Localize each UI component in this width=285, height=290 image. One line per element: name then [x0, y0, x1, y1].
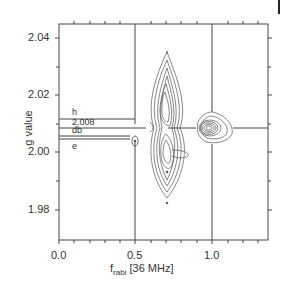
x-tick-1.0: 1.0 — [204, 249, 219, 261]
bottom-ticks — [59, 240, 258, 244]
y-tick-1.98: 1.98 — [28, 203, 49, 215]
x-axis-label-sub: rabi — [113, 268, 126, 277]
y-tick-2.04: 2.04 — [28, 31, 49, 43]
label-e: e — [72, 141, 77, 151]
y-axis-label: g value — [22, 98, 34, 158]
left-ticks — [55, 38, 59, 210]
x-tick-0.0: 0.0 — [51, 249, 66, 261]
x-axis-label: frabi [36 MHz] — [110, 262, 173, 277]
x-axis-label-unit: [36 MHz] — [126, 262, 173, 274]
label-h: h — [72, 107, 77, 117]
secondary-peak-contours — [197, 112, 232, 143]
x-tick-0.5: 0.5 — [127, 249, 142, 261]
right-ticks — [268, 38, 272, 210]
plot-frame — [59, 24, 268, 240]
label-db: db — [72, 125, 82, 135]
